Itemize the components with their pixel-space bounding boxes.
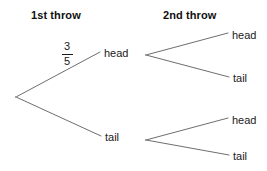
tree-node-dots — [15, 54, 147, 141]
branch-root-to-tail — [16, 97, 101, 136]
node-tail — [145, 139, 147, 141]
column-header-first-throw: 1st throw — [31, 9, 81, 21]
branch-head-to-head — [146, 33, 228, 55]
node-label-second-throw-tail-tail: tail — [233, 150, 247, 162]
node-label-second-throw-head-head: head — [232, 29, 256, 41]
fraction-numerator: 3 — [59, 41, 75, 53]
node-root — [15, 96, 17, 98]
node-label-first-throw-head: head — [104, 47, 128, 59]
column-header-second-throw: 2nd throw — [163, 9, 216, 21]
node-label-first-throw-tail: tail — [105, 131, 119, 143]
fraction-denominator: 5 — [59, 56, 75, 68]
node-label-second-throw-tail-head: head — [232, 114, 256, 126]
branch-tail-to-tail — [146, 140, 229, 155]
branch-tail-to-head — [146, 118, 228, 140]
node-head — [145, 54, 147, 56]
node-label-second-throw-head-tail: tail — [233, 72, 247, 84]
probability-tree-diagram: 1st throw 2nd throw 3 5 head tail head t… — [0, 0, 267, 171]
branch-root-to-head — [16, 52, 100, 97]
branch-head-to-tail — [146, 55, 229, 77]
tree-branch-lines — [0, 0, 267, 171]
probability-fraction-three-fifths: 3 5 — [59, 41, 75, 68]
